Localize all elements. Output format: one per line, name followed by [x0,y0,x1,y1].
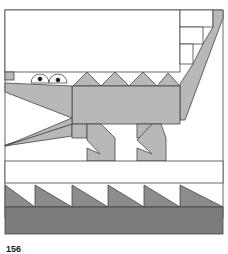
figure-caption: 156 [6,244,21,254]
ground [5,207,223,234]
body [72,86,180,124]
